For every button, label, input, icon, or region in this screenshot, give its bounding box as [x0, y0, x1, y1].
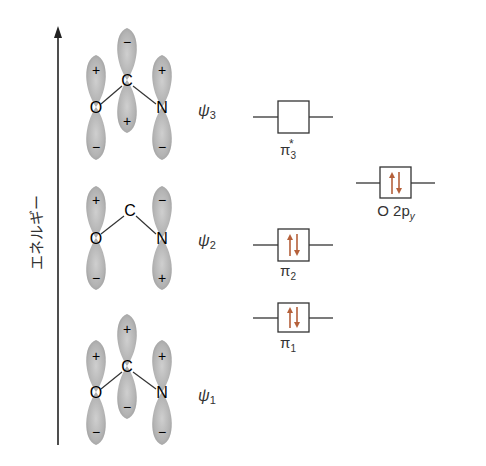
sign: + [158, 62, 166, 78]
sign: + [123, 321, 131, 337]
sign: + [92, 62, 100, 78]
psi1-label: ψ1 [198, 387, 216, 406]
energy-axis-label: エネルギー [28, 195, 45, 270]
atom-c: C [121, 72, 133, 89]
orbital-psi2: O C N + − − + [86, 186, 172, 290]
orbital-psi1: O C N + − + − + − [86, 314, 172, 445]
sign: − [123, 34, 131, 50]
atom-o: O [90, 384, 102, 401]
o-2py-label: O 2py [377, 202, 416, 222]
sign: + [158, 348, 166, 364]
atom-n: N [156, 384, 168, 401]
level-pi2 [253, 229, 333, 261]
orbital-psi3: O C N + − − + + − [86, 28, 172, 160]
sign: − [123, 399, 131, 415]
energy-axis [54, 26, 62, 445]
pi3-star-label: π3* [280, 137, 296, 161]
psi3-label: ψ3 [198, 102, 216, 121]
mo-diagram: エネルギー O C N + − − + + − ψ3 O C N [0, 0, 486, 466]
sign: − [158, 192, 166, 208]
atom-c: C [124, 202, 136, 219]
atom-n: N [156, 99, 168, 116]
arrow-up-icon [54, 26, 62, 38]
atom-n: N [156, 230, 168, 247]
sign: − [158, 424, 166, 440]
sign: + [158, 270, 166, 286]
sign: + [92, 348, 100, 364]
psi2-label: ψ2 [198, 232, 216, 251]
sign: − [92, 270, 100, 286]
sign: + [92, 192, 100, 208]
atom-c: C [121, 358, 133, 375]
sign: − [92, 424, 100, 440]
atom-o: O [90, 230, 102, 247]
pi2-label: π2 [280, 262, 296, 282]
atom-o: O [90, 99, 102, 116]
level-o-2py [356, 167, 435, 198]
level-pi3-star [253, 101, 333, 133]
sign: − [158, 139, 166, 155]
sign: − [92, 139, 100, 155]
sign: + [123, 113, 131, 129]
level-pi1 [253, 303, 333, 332]
pi1-label: π1 [280, 334, 296, 354]
